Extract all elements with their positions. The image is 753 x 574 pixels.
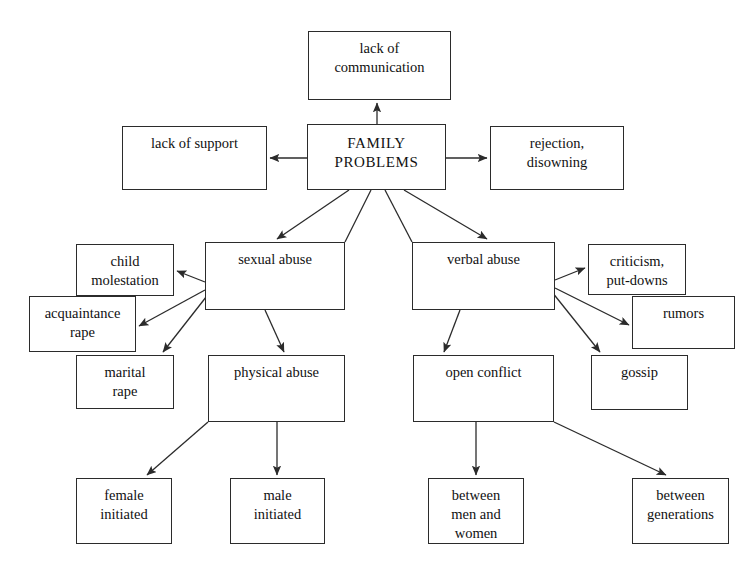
node-acquaintance-rape[interactable]: acquaintance rape xyxy=(29,296,136,352)
node-lack-of-support[interactable]: lack of support xyxy=(122,126,267,190)
edge-sexual-abuse-to-child-molestation xyxy=(177,271,205,282)
node-sexual-abuse[interactable]: sexual abuse xyxy=(205,242,345,310)
node-label: between generations xyxy=(633,486,728,524)
node-child-molestation[interactable]: child molestation xyxy=(76,244,174,296)
node-label: between men and women xyxy=(429,486,523,543)
node-label: lack of communication xyxy=(309,39,450,77)
node-rejection-disowning[interactable]: rejection, disowning xyxy=(490,126,624,190)
node-label: criticism, put-downs xyxy=(589,252,685,290)
node-male-initiated[interactable]: male initiated xyxy=(230,478,325,544)
node-rumors[interactable]: rumors xyxy=(632,296,735,349)
node-label: physical abuse xyxy=(209,363,344,382)
node-physical-abuse[interactable]: physical abuse xyxy=(208,355,345,422)
node-verbal-abuse[interactable]: verbal abuse xyxy=(412,242,555,310)
edge-sexual-abuse-to-physical-abuse xyxy=(265,310,284,352)
edge-verbal-abuse-to-criticism-put-downs xyxy=(555,268,585,280)
edge-physical-abuse-to-female-initiated xyxy=(147,422,208,475)
node-gossip[interactable]: gossip xyxy=(591,355,688,410)
node-label: rumors xyxy=(633,304,734,323)
edge-family-problems-to-sexual-abuse-corner xyxy=(345,190,371,242)
node-label: male initiated xyxy=(231,486,324,524)
edge-family-problems-to-verbal-abuse-corner xyxy=(385,190,412,242)
node-label: lack of support xyxy=(123,134,266,153)
node-label: sexual abuse xyxy=(206,250,344,269)
node-label: marital rape xyxy=(77,363,173,401)
node-label: acquaintance rape xyxy=(30,304,135,342)
concept-map-canvas: lack of communication lack of support FA… xyxy=(0,0,753,574)
node-between-generations[interactable]: between generations xyxy=(632,478,729,544)
node-marital-rape[interactable]: marital rape xyxy=(76,355,174,409)
node-label: gossip xyxy=(592,363,687,382)
node-label: rejection, disowning xyxy=(491,134,623,172)
node-label: verbal abuse xyxy=(413,250,554,269)
edge-sexual-abuse-to-marital-rape xyxy=(163,292,210,352)
edge-family-problems-to-sexual-abuse xyxy=(277,190,349,239)
edge-family-problems-to-verbal-abuse xyxy=(404,190,487,239)
edge-open-conflict-to-between-generations xyxy=(554,422,666,475)
edge-verbal-abuse-to-gossip xyxy=(552,292,600,352)
edge-verbal-abuse-to-open-conflict xyxy=(444,310,460,352)
node-criticism-put-downs[interactable]: criticism, put-downs xyxy=(588,244,686,295)
node-female-initiated[interactable]: female initiated xyxy=(76,478,172,544)
node-label: child molestation xyxy=(77,252,173,290)
node-label: open conflict xyxy=(414,363,553,382)
node-lack-of-communication[interactable]: lack of communication xyxy=(308,31,451,100)
node-family-problems[interactable]: FAMILY PROBLEMS xyxy=(307,124,446,190)
node-open-conflict[interactable]: open conflict xyxy=(413,355,554,422)
node-label: FAMILY PROBLEMS xyxy=(308,134,445,172)
node-label: female initiated xyxy=(77,486,171,524)
node-between-men-and-women[interactable]: between men and women xyxy=(428,478,524,544)
